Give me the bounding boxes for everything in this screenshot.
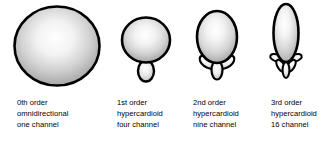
polar-pattern-order-2: 2nd order hypercardioid nine channel — [185, 0, 257, 146]
caption-order-0: 0th order omnidirectional one channel — [17, 97, 68, 131]
caption-pattern-line: hypercardioid — [271, 108, 317, 119]
polar-pattern-figure: 0th order omnidirectional one channel — [0, 0, 331, 146]
hypercardioid-2nd-order-lobe-diagram — [185, 0, 257, 95]
caption-channel-line: four channel — [117, 119, 163, 130]
caption-order-line: 3rd order — [271, 97, 317, 108]
caption-pattern-line: omnidirectional — [17, 108, 68, 119]
caption-channel-line: nine channel — [193, 119, 239, 130]
main-lobe-shape — [15, 7, 100, 86]
hypercardioid-1st-order-lobe-diagram — [110, 0, 185, 95]
caption-order-line: 2nd order — [193, 97, 239, 108]
caption-order-1: 1st order hypercardioid four channel — [117, 97, 163, 131]
main-lobe-shape — [197, 11, 237, 63]
polar-pattern-order-1: 1st order hypercardioid four channel — [110, 0, 185, 146]
polar-pattern-order-3: 3rd order hypercardioid 16 channel — [257, 0, 331, 146]
caption-order-line: 0th order — [17, 97, 68, 108]
caption-pattern-line: hypercardioid — [193, 108, 239, 119]
caption-order-line: 1st order — [117, 97, 163, 108]
caption-channel-line: 16 channel — [271, 119, 317, 130]
main-lobe-shape — [122, 18, 170, 63]
caption-order-3: 3rd order hypercardioid 16 channel — [271, 97, 317, 131]
main-lobe-shape — [274, 4, 299, 62]
polar-pattern-order-0: 0th order omnidirectional one channel — [0, 0, 110, 146]
caption-order-2: 2nd order hypercardioid nine channel — [193, 97, 239, 131]
caption-pattern-line: hypercardioid — [117, 108, 163, 119]
rear-lobe-shape — [283, 62, 290, 78]
omnidirectional-lobe-diagram — [0, 0, 110, 95]
caption-channel-line: one channel — [17, 119, 68, 130]
hypercardioid-3rd-order-lobe-diagram — [257, 0, 331, 95]
